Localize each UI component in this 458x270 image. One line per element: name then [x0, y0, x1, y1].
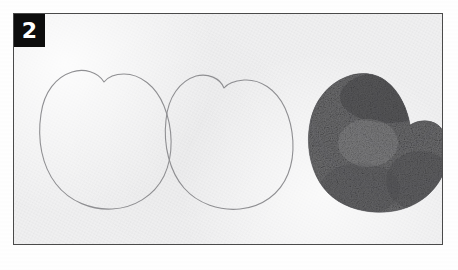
apple-filled-right: [302, 71, 443, 219]
figure-frame: 2: [13, 13, 443, 245]
figure-panel: 2: [0, 0, 458, 270]
panel-number-badge: 2: [14, 14, 45, 47]
apple-outline-left: [36, 66, 176, 216]
apple-outline-middle: [162, 70, 298, 216]
specimen-group: [14, 14, 442, 244]
panel-number-label: 2: [22, 20, 37, 42]
